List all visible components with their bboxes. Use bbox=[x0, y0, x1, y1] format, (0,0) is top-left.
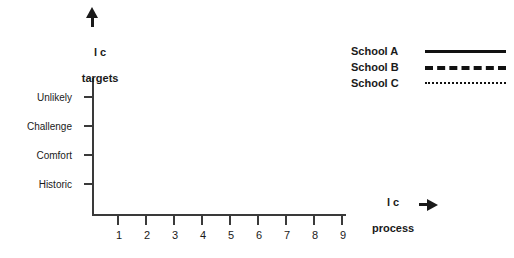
legend-label-school-c: School C bbox=[351, 77, 417, 89]
x-axis-arrow-icon bbox=[427, 199, 438, 211]
y-tick-label-historic: Historic bbox=[39, 179, 72, 190]
legend-item-school-a[interactable]: School A bbox=[351, 43, 506, 59]
y-tick-label-challenge: Challenge bbox=[27, 121, 72, 132]
x-tick-label-7: 7 bbox=[277, 229, 297, 241]
x-tick-mark bbox=[341, 216, 343, 225]
x-tick-label-5: 5 bbox=[221, 229, 241, 241]
y-tick-label-unlikely: Unlikely bbox=[37, 92, 72, 103]
x-tick-label-1: 1 bbox=[109, 229, 129, 241]
x-tick-mark bbox=[229, 216, 231, 225]
x-tick-mark bbox=[285, 216, 287, 225]
x-axis-title-line1: l c bbox=[387, 196, 399, 208]
legend-item-school-c[interactable]: School C bbox=[351, 75, 506, 91]
x-axis-title-line2: process bbox=[372, 222, 414, 234]
x-tick-mark bbox=[313, 216, 315, 225]
x-axis-title: l c process bbox=[352, 183, 422, 248]
x-tick-label-3: 3 bbox=[165, 229, 185, 241]
y-tick-mark bbox=[84, 125, 93, 127]
legend-label-school-b: School B bbox=[351, 61, 417, 73]
y-axis-title-line1: l c bbox=[94, 46, 106, 58]
y-tick-mark bbox=[84, 183, 93, 185]
x-tick-label-2: 2 bbox=[137, 229, 157, 241]
y-tick-mark bbox=[84, 154, 93, 156]
legend-swatch-solid-line-icon bbox=[425, 44, 506, 58]
legend-swatch-dashed-line-icon bbox=[425, 60, 506, 74]
x-tick-mark bbox=[257, 216, 259, 225]
x-tick-mark bbox=[173, 216, 175, 225]
y-axis-arrow-icon bbox=[86, 7, 98, 18]
legend-label-school-a: School A bbox=[351, 45, 417, 57]
x-tick-label-8: 8 bbox=[305, 229, 325, 241]
y-tick-mark bbox=[84, 96, 93, 98]
legend-item-school-b[interactable]: School B bbox=[351, 59, 506, 75]
x-tick-mark bbox=[117, 216, 119, 225]
y-axis-line bbox=[92, 78, 94, 216]
x-tick-label-6: 6 bbox=[249, 229, 269, 241]
x-tick-label-4: 4 bbox=[193, 229, 213, 241]
chart-figure: l c targets l c process Unlikely Challen… bbox=[0, 0, 514, 258]
y-tick-label-comfort: Comfort bbox=[36, 150, 72, 161]
y-axis-title: l c targets bbox=[40, 33, 148, 98]
legend-swatch-dotted-line-icon bbox=[425, 76, 506, 90]
chart-legend: School A School B School C bbox=[351, 43, 506, 91]
x-axis-line bbox=[92, 214, 346, 216]
x-tick-mark bbox=[201, 216, 203, 225]
y-axis-title-line2: targets bbox=[82, 72, 119, 84]
x-tick-label-9: 9 bbox=[333, 229, 353, 241]
x-tick-mark bbox=[145, 216, 147, 225]
